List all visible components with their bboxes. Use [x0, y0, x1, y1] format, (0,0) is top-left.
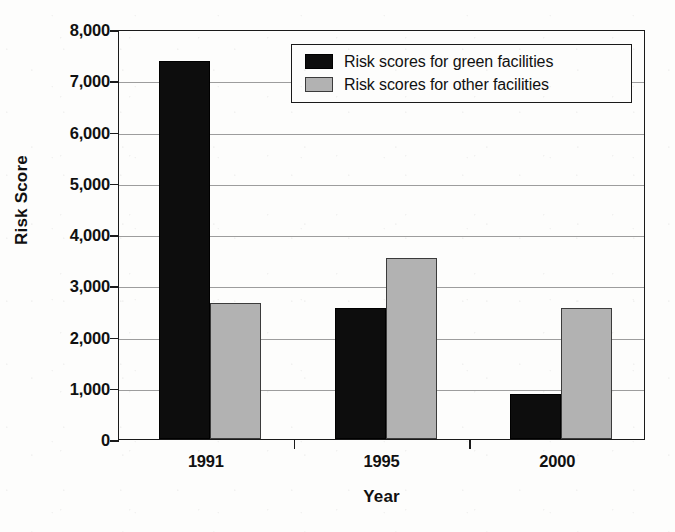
x-axis-tick-label: 1995 [322, 452, 442, 471]
legend-swatch-green-icon [305, 54, 333, 69]
y-axis-tick-mark [110, 440, 119, 442]
y-axis-tick-label: 5,000 [38, 174, 110, 193]
y-axis-tick-label: 0 [38, 431, 110, 450]
y-axis-tick-label: 3,000 [38, 277, 110, 296]
x-axis-tick-mark [294, 440, 296, 449]
y-axis-tick-label: 1,000 [38, 379, 110, 398]
x-axis-title: Year [118, 487, 645, 507]
legend-label-other: Risk scores for other facilities [344, 76, 549, 94]
bar-2000-green [510, 394, 561, 439]
y-axis-tick-label: 2,000 [38, 328, 110, 347]
bar-1995-green [335, 308, 386, 439]
legend-swatch-other-icon [305, 77, 333, 92]
legend: Risk scores for green facilities Risk sc… [291, 44, 632, 103]
y-axis-tick-label: 6,000 [38, 123, 110, 142]
y-axis-tick-label: 4,000 [38, 226, 110, 245]
x-axis-tick-label: 1991 [146, 452, 266, 471]
x-axis-tick-mark [469, 440, 471, 449]
legend-entry-green: Risk scores for green facilities [305, 51, 631, 72]
x-axis-tick-label: 2000 [497, 452, 617, 471]
y-axis-title: Risk Score [12, 140, 32, 260]
legend-entry-other: Risk scores for other facilities [305, 74, 631, 95]
bar-1991-green [159, 61, 210, 439]
legend-label-green: Risk scores for green facilities [344, 53, 553, 71]
bar-1991-other [210, 303, 261, 439]
y-axis-tick-labels: 01,0002,0003,0004,0005,0006,0007,0008,00… [32, 0, 110, 532]
bar-chart: Risk Score 01,0002,0003,0004,0005,0006,0… [0, 0, 675, 532]
y-axis-tick-label: 7,000 [38, 72, 110, 91]
bar-1995-other [386, 258, 437, 439]
y-axis-tick-label: 8,000 [38, 21, 110, 40]
bar-2000-other [561, 308, 612, 439]
